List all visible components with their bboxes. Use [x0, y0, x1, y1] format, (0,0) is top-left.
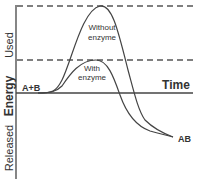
released-label: Released: [3, 125, 15, 171]
without-enzyme-label-line2: enzyme: [88, 33, 117, 42]
without-enzyme-label-line1: Without: [88, 23, 116, 32]
with-enzyme-label-line2: enzyme: [78, 73, 107, 82]
with-enzyme-curve: [38, 60, 173, 137]
reactants-label: A+B: [22, 83, 41, 93]
with-enzyme-label-line1: With: [84, 64, 100, 73]
energy-diagram: Used Energy Released A+B AB Time Without…: [0, 0, 197, 179]
energy-label: Energy: [2, 75, 16, 116]
product-label: AB: [178, 134, 191, 144]
used-label: Used: [3, 32, 15, 58]
time-label: Time: [162, 78, 190, 92]
